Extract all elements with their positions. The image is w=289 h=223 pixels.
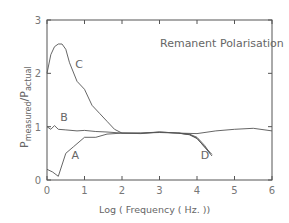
x-tick-label: 5 xyxy=(231,185,237,196)
curve-c xyxy=(47,44,210,153)
y-label-numerator: measured xyxy=(24,101,33,141)
data-curves: ABCD xyxy=(47,44,272,176)
x-tick-label: 6 xyxy=(269,185,275,196)
x-axis-label: Log ( Frequency ( Hz. )) xyxy=(99,204,210,215)
y-tick-label: 3 xyxy=(35,15,41,26)
curve-label-a: A xyxy=(71,149,79,162)
chart-figure: 01234560123 ABCD Remanent Polarisation L… xyxy=(0,0,289,223)
x-tick-label: 1 xyxy=(81,185,87,196)
chart-labels: Remanent Polarisation Log ( Frequency ( … xyxy=(18,37,284,215)
x-tick-label: 2 xyxy=(119,185,125,196)
y-tick-label: 0 xyxy=(35,175,41,186)
curve-label-c: C xyxy=(75,58,83,71)
x-tick-label: 0 xyxy=(44,185,50,196)
svg-text:Pmeasured/Pactual: Pmeasured/Pactual xyxy=(18,66,33,148)
x-tick-label: 3 xyxy=(156,185,162,196)
curve-label-d: D xyxy=(201,149,209,162)
chart-title: Remanent Polarisation xyxy=(160,37,284,50)
y-tick-label: 2 xyxy=(35,68,41,79)
y-axis-label: Pmeasured/Pactual xyxy=(18,66,33,148)
x-tick-label: 4 xyxy=(194,185,200,196)
curve-label-b: B xyxy=(60,111,68,124)
y-label-denominator: actual xyxy=(24,66,33,91)
y-tick-label: 1 xyxy=(35,122,41,133)
